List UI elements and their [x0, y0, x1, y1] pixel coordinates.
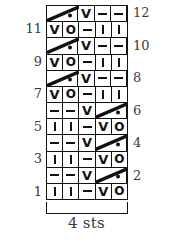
- knit-bar-symbol: [102, 25, 104, 34]
- chart-cell: O: [112, 184, 127, 199]
- chart-cell: [47, 168, 63, 183]
- knitting-chart-figure: VVOVVOVVOVVOVVOVVO 123456789101112 4 sts: [0, 0, 173, 246]
- chart-cell: [63, 168, 79, 183]
- purl-dash-symbol: [50, 142, 59, 144]
- row-number-2: 2: [133, 168, 141, 184]
- row-number-1: 1: [34, 184, 42, 200]
- slip-stitch-v-symbol: V: [50, 88, 60, 101]
- yarn-over-circle-symbol: O: [114, 185, 124, 197]
- purl-dash-symbol: [114, 13, 123, 15]
- row-number-5: 5: [34, 119, 42, 135]
- chart-row: VO: [47, 55, 127, 71]
- knit-bar-symbol: [102, 90, 104, 99]
- yarn-over-circle-symbol: O: [66, 56, 76, 68]
- purl-dash-symbol: [83, 93, 92, 95]
- chart-row: V: [47, 6, 127, 22]
- purl-dash-symbol: [66, 110, 75, 112]
- knit-bar-symbol: [54, 122, 56, 131]
- chart-row: V: [47, 103, 127, 119]
- chart-cell: V: [79, 168, 95, 183]
- chart-cell: V: [79, 135, 95, 150]
- slip-stitch-v-symbol: V: [50, 56, 60, 69]
- purl-dash-symbol: [83, 126, 92, 128]
- chart-cell: [112, 87, 127, 102]
- bobble-dot-symbol: [116, 110, 120, 114]
- purl-dash-symbol: [114, 45, 123, 47]
- yarn-over-circle-symbol: O: [114, 121, 124, 133]
- purl-dash-symbol: [83, 61, 92, 63]
- chart-cell: [79, 87, 95, 102]
- knit-bar-symbol: [118, 25, 120, 34]
- purl-dash-symbol: [50, 110, 59, 112]
- slip-stitch-v-symbol: V: [98, 120, 108, 133]
- chart-cell: [95, 71, 111, 86]
- slip-stitch-v-symbol: V: [82, 136, 92, 149]
- chart-cell: [62, 71, 78, 86]
- chart-cell: V: [47, 55, 63, 70]
- bobble-dot-symbol: [68, 78, 72, 82]
- slip-stitch-v-symbol: V: [82, 169, 92, 182]
- row-number-6: 6: [133, 103, 141, 119]
- chart-cell: [79, 184, 95, 199]
- purl-dash-symbol: [50, 174, 59, 176]
- chart-row: V: [47, 71, 127, 87]
- chart-cell: [112, 55, 127, 70]
- slip-stitch-v-symbol: V: [98, 185, 108, 198]
- row-number-7: 7: [34, 86, 42, 102]
- slip-stitch-v-symbol: V: [50, 23, 60, 36]
- chart-cell: [62, 38, 78, 53]
- chart-cell: [96, 87, 112, 102]
- knit-bar-symbol: [118, 90, 120, 99]
- chart-cell: O: [112, 119, 127, 134]
- row-number-12: 12: [133, 5, 150, 21]
- chart-cell: V: [79, 103, 95, 118]
- slip-stitch-v-symbol: V: [82, 104, 92, 117]
- knit-bar-symbol: [70, 187, 72, 196]
- chart-cell: [111, 168, 127, 183]
- chart-cell: [79, 22, 95, 37]
- chart-cell: [96, 103, 111, 118]
- chart-cell: O: [63, 87, 79, 102]
- chart-cell: [47, 152, 63, 167]
- chart-cell: O: [112, 152, 127, 167]
- chart-row: V: [47, 38, 127, 54]
- chart-cell: [111, 71, 127, 86]
- chart-cell: V: [47, 22, 63, 37]
- chart-cell: [96, 55, 112, 70]
- row-number-11: 11: [25, 21, 42, 37]
- chart-cell: [111, 103, 127, 118]
- purl-dash-symbol: [83, 190, 92, 192]
- row-number-4: 4: [133, 135, 141, 151]
- chart-cell: [47, 6, 62, 21]
- chart-cell: [111, 38, 127, 53]
- slip-stitch-v-symbol: V: [98, 153, 108, 166]
- chart-cell: [62, 6, 78, 21]
- purl-dash-symbol: [114, 77, 123, 79]
- chart-cell: [79, 119, 95, 134]
- chart-cell: [111, 135, 127, 150]
- chart-cell: O: [63, 55, 79, 70]
- chart-row: VO: [47, 184, 127, 199]
- chart-cell: V: [96, 152, 112, 167]
- chart-cell: [95, 38, 111, 53]
- purl-dash-symbol: [98, 77, 107, 79]
- purl-dash-symbol: [66, 142, 75, 144]
- yarn-over-circle-symbol: O: [66, 24, 76, 36]
- chart-row: VO: [47, 119, 127, 135]
- chart-cell: [47, 71, 62, 86]
- row-number-10: 10: [133, 38, 150, 54]
- chart-cell: [47, 119, 63, 134]
- chart-cell: [79, 152, 95, 167]
- chart-row: V: [47, 168, 127, 184]
- stitch-grid: VVOVVOVVOVVOVVOVVO: [46, 5, 128, 200]
- purl-dash-symbol: [66, 174, 75, 176]
- row-number-9: 9: [34, 54, 42, 70]
- chart-cell: V: [78, 38, 94, 53]
- chart-cell: V: [96, 119, 112, 134]
- purl-dash-symbol: [83, 29, 92, 31]
- chart-row: V: [47, 135, 127, 151]
- bobble-dot-symbol: [116, 175, 120, 179]
- chart-cell: [47, 184, 63, 199]
- chart-cell: V: [78, 6, 94, 21]
- chart-cell: [47, 135, 63, 150]
